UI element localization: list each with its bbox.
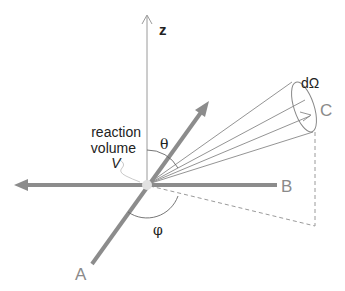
reaction-volume-symbol: V xyxy=(111,155,122,171)
reaction-volume-pointer xyxy=(120,160,140,182)
solid-angle-cone xyxy=(148,79,322,184)
theta-label: θ xyxy=(160,136,168,152)
z-axis xyxy=(142,15,152,185)
diagram-svg: z B A C dΩ θ φ reaction volume V xyxy=(0,0,345,291)
b-label: B xyxy=(281,177,292,196)
reaction-label-line2: volume xyxy=(91,140,136,156)
solid-angle-label: dΩ xyxy=(301,75,319,91)
z-axis-label: z xyxy=(159,21,167,38)
reaction-label-line1: reaction xyxy=(91,124,141,140)
beam-left-arrow xyxy=(14,179,147,191)
phi-arc xyxy=(128,196,178,218)
origin-reaction-volume xyxy=(142,180,152,190)
scattering-diagram: z B A C dΩ θ φ reaction volume V xyxy=(0,0,345,291)
phi-label: φ xyxy=(153,222,163,238)
a-label: A xyxy=(75,265,87,284)
c-label: C xyxy=(320,101,332,120)
